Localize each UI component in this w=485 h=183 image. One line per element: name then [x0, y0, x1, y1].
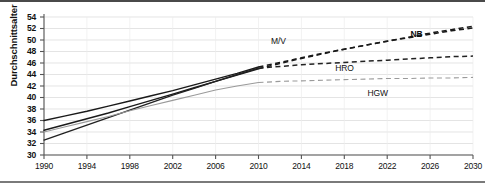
x-tick-label: 2022: [367, 161, 407, 171]
series-annotation-label: HRO: [335, 63, 354, 73]
y-tick-label: 34: [14, 127, 36, 137]
series-line-dashed: [259, 26, 474, 69]
y-tick-label: 30: [14, 150, 36, 160]
x-tick-label: 2002: [153, 161, 193, 171]
y-tick-label: 54: [14, 12, 36, 22]
x-tick-label: 1994: [67, 161, 107, 171]
x-tick-label: 2030: [453, 161, 485, 171]
series-line-dashed: [259, 77, 474, 82]
y-tick-label: 50: [14, 35, 36, 45]
y-tick-label: 36: [14, 115, 36, 125]
y-tick-label: 52: [14, 23, 36, 33]
x-tick-label: 2026: [410, 161, 450, 171]
x-tick-label: 2014: [281, 161, 321, 171]
series-annotation-label: NB: [410, 29, 422, 39]
y-tick-label: 46: [14, 58, 36, 68]
y-tick-label: 38: [14, 104, 36, 114]
y-tick-label: 32: [14, 138, 36, 148]
series-line-dashed: [259, 56, 474, 68]
x-tick-label: 1998: [110, 161, 150, 171]
series-annotation-label: M/V: [271, 36, 286, 46]
x-tick-label: 2010: [239, 161, 279, 171]
y-tick-label: 40: [14, 92, 36, 102]
series-line-dashed: [259, 28, 474, 67]
series-annotation-label: HGW: [367, 88, 387, 98]
x-tick-label: 1990: [24, 161, 64, 171]
chart-figure: Durchschnittsalter 303234363840424446485…: [0, 0, 485, 183]
series-line-solid: [44, 83, 259, 132]
x-tick-label: 2006: [196, 161, 236, 171]
y-tick-label: 42: [14, 81, 36, 91]
x-tick-label: 2018: [324, 161, 364, 171]
y-tick-label: 48: [14, 46, 36, 56]
series-line-solid: [44, 67, 259, 120]
y-tick-label: 44: [14, 69, 36, 79]
